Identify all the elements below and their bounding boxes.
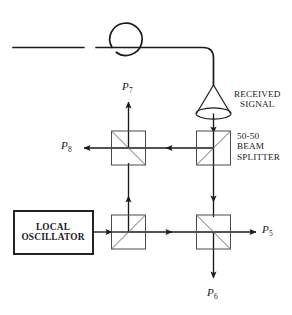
port-subscript-p5: 5	[269, 229, 273, 238]
port-symbol-p5: P	[262, 223, 269, 235]
port-symbol-p6: P	[207, 286, 214, 298]
port-subscript-p6: 6	[214, 292, 218, 301]
port-label-p7: P7	[122, 80, 133, 96]
local-oscillator-line2: OSCILLATOR	[21, 232, 84, 242]
local-oscillator-line1: LOCAL	[36, 222, 70, 232]
fiber-input-path	[13, 23, 214, 85]
received-signal-line1: RECEIVED	[234, 89, 281, 99]
beam-splitter-line3: SPLITTER	[237, 152, 280, 162]
beam-splitter-line1: 50-50	[237, 131, 259, 141]
port-label-p6: P6	[207, 286, 218, 302]
port-symbol-p8: P	[61, 139, 68, 151]
beam-splitter-label: 50-50 BEAM SPLITTER	[237, 131, 280, 162]
beam-paths	[84, 102, 256, 278]
beam-splitter-line2: BEAM	[237, 141, 264, 151]
port-subscript-p7: 7	[129, 86, 133, 95]
local-oscillator-label: LOCAL OSCILLATOR	[14, 222, 92, 243]
port-subscript-p8: 8	[68, 145, 72, 154]
received-signal-label: RECEIVED SIGNAL	[234, 89, 281, 110]
optical-receiver-diagram: LOCAL OSCILLATOR RECEIVED SIGNAL 50-50 B…	[0, 0, 292, 315]
port-label-p5: P5	[262, 223, 273, 239]
received-signal-line2: SIGNAL	[234, 99, 281, 109]
port-label-p8: P8	[61, 139, 72, 155]
port-symbol-p7: P	[122, 80, 129, 92]
